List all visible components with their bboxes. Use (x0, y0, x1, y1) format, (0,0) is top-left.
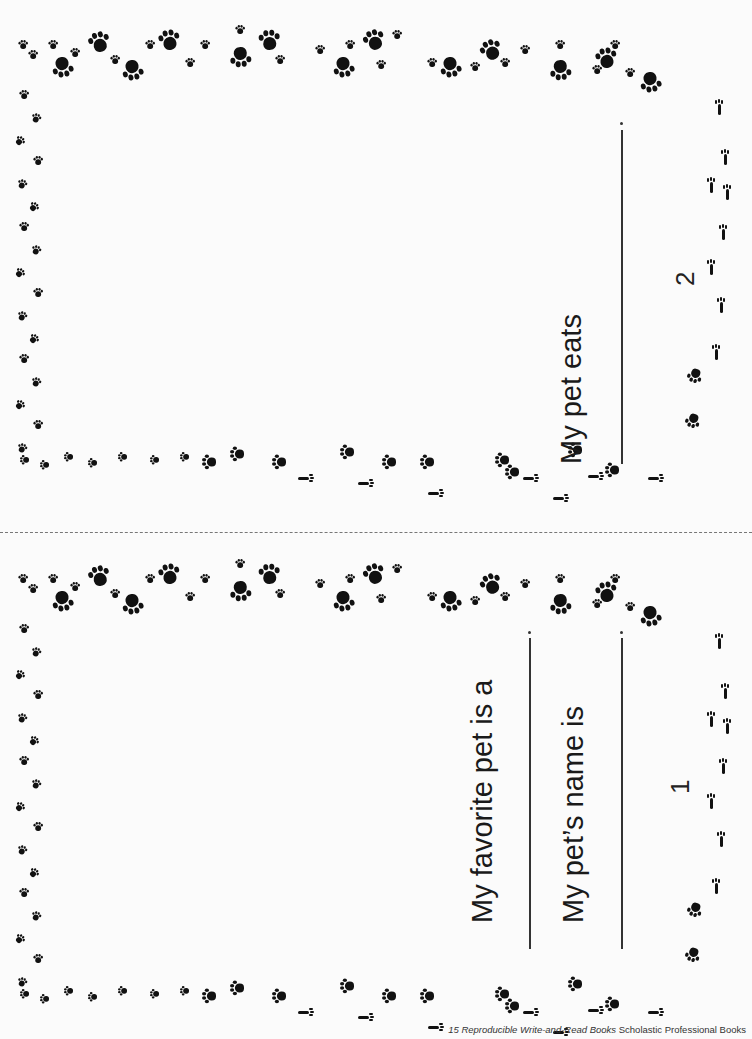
paw-print-icon (70, 48, 80, 58)
bird-track-icon (587, 471, 603, 481)
paw-print-icon (20, 989, 30, 999)
paw-print-icon (235, 559, 245, 569)
paw-print-icon (27, 332, 41, 346)
paw-print-icon (684, 944, 704, 964)
paw-print-icon (18, 574, 28, 584)
bird-track-icon (718, 759, 728, 775)
paw-print-icon (470, 596, 480, 606)
bird-track-icon (552, 493, 568, 503)
paw-print-icon (48, 40, 58, 50)
paw-print-icon (150, 989, 160, 999)
paw-print-icon (40, 460, 50, 470)
paw-print-icon (13, 266, 27, 280)
bird-track-icon (706, 794, 716, 810)
answer-line-pet-eats[interactable] (621, 130, 623, 464)
bird-track-icon (647, 1007, 663, 1017)
paw-print-icon (684, 410, 704, 430)
paw-print-icon (520, 579, 530, 589)
paw-print-icon (30, 778, 43, 791)
paw-print-icon (27, 866, 41, 880)
paw-print-icon (686, 899, 706, 919)
paw-print-icon (86, 564, 113, 591)
paw-print-icon (19, 354, 29, 364)
paw-print-icon (88, 992, 98, 1002)
paw-print-icon (605, 463, 620, 478)
paw-print-icon (376, 594, 386, 604)
paw-print-icon (185, 592, 195, 602)
paw-print-icon (438, 53, 463, 78)
paw-print-icon (340, 445, 355, 460)
paw-print-icon (20, 455, 30, 465)
bird-track-icon (722, 185, 732, 201)
paw-print-icon (110, 589, 120, 599)
paw-print-icon (70, 582, 80, 592)
paw-print-icon (28, 584, 38, 594)
paw-print-icon (16, 976, 29, 989)
bird-track-icon (711, 879, 721, 895)
paw-print-icon (88, 458, 98, 468)
paw-print-icon (16, 712, 29, 725)
paw-print-icon (28, 50, 38, 60)
paw-print-icon (180, 986, 190, 996)
paw-print-icon (180, 452, 190, 462)
bird-track-icon (427, 1022, 443, 1032)
paw-print-icon (625, 68, 635, 78)
paw-print-icon (16, 178, 29, 191)
footer-book-title: 15 Reproducible Write-and-Read Books (448, 1024, 616, 1035)
footer-publisher: Scholastic Professional Books (619, 1024, 746, 1035)
paw-print-icon (505, 999, 520, 1014)
paw-print-icon (13, 134, 27, 148)
paw-print-icon (360, 27, 388, 55)
paw-print-icon (686, 365, 706, 385)
bird-track-icon (716, 298, 726, 314)
paw-print-icon (315, 579, 325, 589)
blank-line-end-dot (620, 122, 623, 125)
paw-print-icon (118, 452, 128, 462)
paw-print-icon (638, 602, 663, 627)
footer-credit: 15 Reproducible Write-and-Read Books Sch… (448, 1024, 746, 1035)
prompt-pet-name: My pet’s name is (557, 706, 590, 923)
bird-track-icon (647, 473, 663, 483)
paw-print-icon (33, 420, 43, 430)
paw-print-icon (64, 452, 74, 462)
paw-print-icon (16, 310, 29, 323)
paw-print-icon (185, 58, 195, 68)
bird-track-icon (522, 473, 538, 483)
paw-print-icon (19, 756, 29, 766)
paw-print-icon (500, 58, 510, 68)
paw-print-icon (229, 578, 253, 602)
paw-print-icon (392, 564, 402, 574)
page-2: My pet eats 2 (0, 0, 752, 532)
paw-print-icon (202, 455, 217, 470)
paw-print-icon (30, 112, 43, 125)
paw-print-icon (420, 989, 435, 1004)
paw-print-icon (275, 589, 285, 599)
paw-print-icon (30, 376, 43, 389)
paw-print-icon (33, 822, 43, 832)
paw-print-icon (555, 574, 565, 584)
paw-print-icon (120, 56, 145, 81)
paw-print-icon (360, 561, 388, 589)
paw-print-icon (48, 574, 58, 584)
paw-print-icon (315, 45, 325, 55)
bird-track-icon (522, 1007, 538, 1017)
paw-print-icon (19, 90, 29, 100)
bird-track-icon (587, 1005, 603, 1015)
paw-print-icon (200, 40, 210, 50)
answer-line-favorite-pet[interactable] (529, 638, 531, 949)
paw-print-icon (202, 989, 217, 1004)
bird-track-icon (716, 832, 726, 848)
paw-print-icon (382, 455, 397, 470)
paw-print-icon (420, 455, 435, 470)
paw-print-icon (549, 591, 573, 615)
paw-print-icon (145, 574, 155, 584)
paw-print-icon (549, 57, 573, 81)
answer-line-pet-name[interactable] (621, 638, 623, 949)
paw-print-icon (427, 592, 437, 602)
bird-track-icon (720, 150, 730, 166)
paw-print-icon (110, 55, 120, 65)
paw-print-icon (30, 910, 43, 923)
bird-track-icon (357, 478, 373, 488)
bird-track-icon (706, 712, 716, 728)
paw-print-icon (156, 28, 181, 53)
